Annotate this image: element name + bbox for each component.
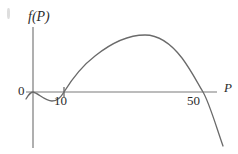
y-axis-label: f(P) xyxy=(28,10,50,24)
function-curve xyxy=(26,35,223,146)
x-axis-label: P xyxy=(224,81,232,94)
tick-label-10: 10 xyxy=(54,94,67,107)
origin-label: 0 xyxy=(18,84,25,97)
tick-label-50: 50 xyxy=(187,94,200,107)
figure-container: f(P) P 0 10 50 xyxy=(0,0,238,154)
